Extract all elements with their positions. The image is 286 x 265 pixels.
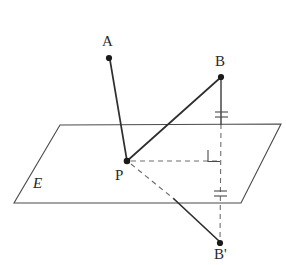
plane-e-outline xyxy=(14,124,281,203)
right-angle-marker xyxy=(208,150,220,162)
segment-p-to-bprime-hidden-dashed xyxy=(131,164,174,199)
segment-pa-solid xyxy=(110,60,127,161)
label-point-p: P xyxy=(115,168,123,183)
segment-plane-to-bprime-dashed xyxy=(220,124,221,241)
segment-p-to-bprime-visible-solid xyxy=(174,199,219,241)
label-point-a: A xyxy=(102,34,113,49)
label-point-b: B xyxy=(215,54,225,69)
label-point-b-prime: B' xyxy=(214,247,227,262)
point-p-dot xyxy=(124,158,131,165)
geometry-canvas xyxy=(0,0,286,265)
point-a-dot xyxy=(106,55,112,61)
label-plane-e: E xyxy=(33,176,42,191)
segment-pb-solid xyxy=(127,78,220,161)
point-b-dot xyxy=(218,74,224,80)
geometry-figure: A B P B' E xyxy=(0,0,286,265)
